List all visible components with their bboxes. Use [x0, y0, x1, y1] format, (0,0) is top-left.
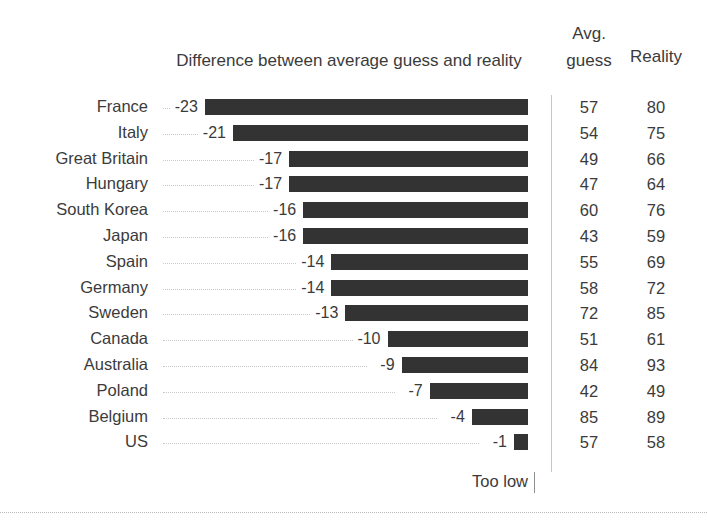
- leader-line: [163, 418, 437, 420]
- difference-bar: [472, 409, 528, 425]
- column-divider: [551, 95, 552, 472]
- country-label: US: [0, 432, 148, 451]
- chart-row: Australia-98493: [0, 353, 707, 379]
- country-label: Spain: [0, 252, 148, 271]
- too-low-tick-mark: [534, 472, 535, 493]
- avg-guess-value: 72: [560, 304, 618, 323]
- difference-value-label: -16: [273, 201, 296, 219]
- chart-row: South Korea-166076: [0, 198, 707, 224]
- difference-bar: [331, 254, 528, 270]
- difference-value-label: -23: [175, 98, 198, 116]
- difference-value-label: -9: [380, 356, 394, 374]
- difference-bar: [430, 383, 528, 399]
- chart-row: Italy-215475: [0, 121, 707, 147]
- country-label: South Korea: [0, 200, 148, 219]
- avg-guess-header-line1: Avg.: [560, 20, 618, 47]
- difference-bar: [303, 228, 528, 244]
- reality-value: 72: [621, 279, 691, 298]
- chart-row: US-15758: [0, 430, 707, 456]
- chart-rows: France-235780Italy-215475Great Britain-1…: [0, 95, 707, 456]
- avg-guess-value: 57: [560, 98, 618, 117]
- leader-line: [163, 108, 170, 110]
- reality-value: 58: [621, 433, 691, 452]
- avg-guess-column-header: Avg. guess: [560, 20, 618, 74]
- avg-guess-value: 43: [560, 227, 618, 246]
- chart-row: Canada-105161: [0, 327, 707, 353]
- chart-row: Japan-164359: [0, 224, 707, 250]
- difference-bar: [345, 305, 528, 321]
- chart-row: France-235780: [0, 95, 707, 121]
- leader-line: [163, 134, 198, 136]
- difference-value-label: -21: [203, 124, 226, 142]
- difference-value-label: -10: [357, 330, 380, 348]
- avg-guess-value: 42: [560, 382, 618, 401]
- avg-guess-value: 51: [560, 330, 618, 349]
- reality-value: 64: [621, 175, 691, 194]
- country-label: Italy: [0, 123, 148, 142]
- difference-bar: [402, 357, 528, 373]
- leader-line: [163, 185, 254, 187]
- reality-value: 80: [621, 98, 691, 117]
- chart-row: Hungary-174764: [0, 172, 707, 198]
- country-label: France: [0, 97, 148, 116]
- country-label: Australia: [0, 355, 148, 374]
- difference-bar: [514, 434, 528, 450]
- reality-value: 76: [621, 201, 691, 220]
- reality-value: 49: [621, 382, 691, 401]
- country-label: Poland: [0, 381, 148, 400]
- avg-guess-value: 58: [560, 279, 618, 298]
- difference-value-label: -14: [301, 279, 324, 297]
- reality-value: 89: [621, 408, 691, 427]
- reality-column-header: Reality: [621, 47, 691, 67]
- leader-line: [163, 263, 296, 265]
- country-label: Hungary: [0, 174, 148, 193]
- country-label: Japan: [0, 226, 148, 245]
- reality-value: 93: [621, 356, 691, 375]
- avg-guess-value: 85: [560, 408, 618, 427]
- difference-value-label: -13: [315, 304, 338, 322]
- chart-title: Difference between average guess and rea…: [163, 51, 535, 71]
- difference-value-label: -17: [259, 150, 282, 168]
- chart-row: Belgium-48589: [0, 405, 707, 431]
- chart-row: Germany-145872: [0, 276, 707, 302]
- leader-line: [163, 160, 254, 162]
- difference-bar: [303, 202, 528, 218]
- reality-value: 66: [621, 150, 691, 169]
- avg-guess-value: 47: [560, 175, 618, 194]
- difference-value-label: -14: [301, 253, 324, 271]
- leader-line: [163, 289, 296, 291]
- difference-bar: [388, 331, 529, 347]
- difference-value-label: -1: [493, 433, 507, 451]
- difference-bar: [233, 125, 528, 141]
- leader-line: [163, 211, 268, 213]
- chart-row: Sweden-137285: [0, 301, 707, 327]
- reality-value: 69: [621, 253, 691, 272]
- chart-row: Poland-74249: [0, 379, 707, 405]
- leader-line: [163, 314, 310, 316]
- difference-value-label: -16: [273, 227, 296, 245]
- leader-line: [163, 366, 367, 368]
- reality-value: 61: [621, 330, 691, 349]
- difference-bar: [205, 99, 528, 115]
- avg-guess-value: 55: [560, 253, 618, 272]
- avg-guess-value: 54: [560, 124, 618, 143]
- leader-line: [163, 443, 479, 445]
- too-low-label: Too low: [395, 472, 528, 491]
- difference-value-label: -7: [408, 382, 422, 400]
- chart-row: Spain-145569: [0, 250, 707, 276]
- difference-bar: [331, 280, 528, 296]
- difference-bar: [289, 151, 528, 167]
- bottom-dotted-rule: [0, 512, 707, 514]
- avg-guess-value: 84: [560, 356, 618, 375]
- reality-value: 59: [621, 227, 691, 246]
- country-label: Great Britain: [0, 149, 148, 168]
- avg-guess-header-line2: guess: [560, 47, 618, 74]
- reality-value: 75: [621, 124, 691, 143]
- difference-value-label: -17: [259, 175, 282, 193]
- leader-line: [163, 392, 395, 394]
- leader-line: [163, 340, 353, 342]
- country-label: Germany: [0, 278, 148, 297]
- avg-guess-value: 57: [560, 433, 618, 452]
- country-label: Belgium: [0, 407, 148, 426]
- leader-line: [163, 237, 268, 239]
